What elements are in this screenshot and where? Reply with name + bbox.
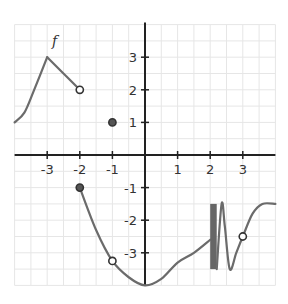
x-tick-label: 3 (239, 162, 247, 177)
closed-point (109, 119, 116, 126)
function-graph: -3-2-1123321-1-2-3 f (0, 0, 288, 304)
y-tick-label: 2 (129, 83, 137, 98)
y-tick-label: -3 (124, 246, 137, 261)
axes: -3-2-1123321-1-2-3 (15, 23, 276, 286)
x-tick-label: 1 (173, 162, 181, 177)
open-point (76, 86, 83, 93)
x-tick-label: 2 (206, 162, 214, 177)
x-tick-label: -2 (73, 162, 86, 177)
x-tick-label: -1 (106, 162, 119, 177)
closed-point (76, 184, 83, 191)
y-tick-label: 3 (129, 50, 137, 65)
y-tick-label: -2 (124, 213, 137, 228)
y-tick-label: -1 (124, 181, 137, 196)
open-point (109, 257, 116, 264)
open-point (239, 233, 246, 240)
oscillation-band (210, 204, 217, 269)
y-tick-label: 1 (129, 115, 137, 130)
x-tick-label: -3 (41, 162, 54, 177)
